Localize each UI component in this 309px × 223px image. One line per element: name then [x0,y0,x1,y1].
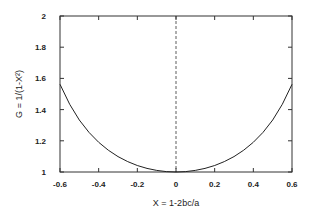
x-tick-label: 0.2 [209,180,221,189]
y-tick-label: 2 [42,12,47,21]
x-tick-label: 0.4 [248,180,260,189]
y-tick-label: 1.8 [35,43,47,52]
y-tick-label: 1.4 [35,106,47,115]
x-tick-label: -0.4 [92,180,106,189]
y-tick-label: 1.2 [35,137,47,146]
y-axis-title: G = 1/(1-X²) [14,70,24,118]
x-tick-label: -0.6 [53,180,67,189]
y-axis: 11.21.41.61.82 [35,12,292,177]
chart: 11.21.41.61.82 -0.6-0.4-0.200.20.40.6 G … [0,0,309,223]
x-tick-label: 0 [174,180,179,189]
y-tick-label: 1.6 [35,74,47,83]
y-tick-label: 1 [42,168,47,177]
x-tick-label: 0.6 [286,180,298,189]
x-tick-label: -0.2 [130,180,144,189]
x-axis-title: X = 1-2bc/a [153,198,199,208]
